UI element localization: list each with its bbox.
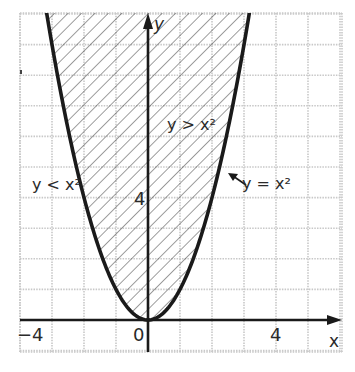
x-axis-label: x (329, 331, 339, 351)
region-label-above: y > x² (167, 115, 216, 134)
y-axis-label: y (153, 14, 165, 34)
tick-label-y-4: 4 (134, 188, 145, 209)
margin-mark (20, 70, 22, 74)
curve-label: y = x² (242, 174, 291, 193)
tick-label-x-0: 0 (133, 324, 144, 345)
region-label-below: y < x² (32, 175, 81, 194)
x-axis (20, 315, 342, 325)
tick-label-x-neg4: −4 (17, 324, 44, 345)
parabola-inequality-graph: y x −4 0 4 4 y > x² y < x² y = x² (0, 0, 355, 372)
tick-label-x-4: 4 (270, 324, 281, 345)
